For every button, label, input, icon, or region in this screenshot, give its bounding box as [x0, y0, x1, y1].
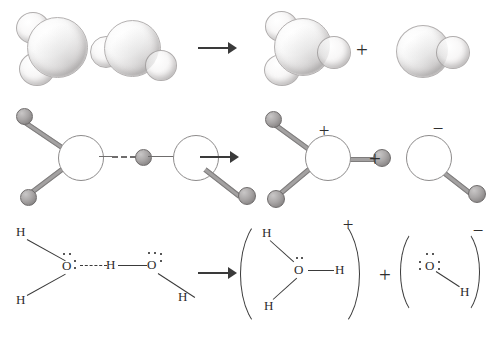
lone-pair-dot [160, 253, 162, 255]
row-space-filling: + [0, 0, 495, 112]
lone-pair-dot [63, 253, 65, 255]
lone-pair-dot [160, 260, 162, 262]
oxygen-ball [58, 135, 104, 181]
lone-pair-dot [74, 267, 76, 269]
hydrogen-label: H [16, 293, 25, 306]
oxygen-label: O [425, 259, 434, 272]
reaction-arrow [198, 267, 238, 279]
hydrogen-ball [468, 185, 486, 203]
space-filling-water-2 [90, 18, 182, 90]
hydrogen-ball [238, 187, 256, 205]
hydrogen-label: H [262, 226, 271, 239]
o-h-bond [308, 270, 334, 271]
o-h-bond [27, 239, 66, 261]
hydrogen-label: H [16, 225, 25, 238]
lewis-hydroxide: O H − [398, 213, 494, 337]
o-h-bond [203, 168, 241, 199]
hydrogen-label: H [264, 299, 273, 312]
lone-pair-dot [74, 260, 76, 262]
o-h-bond [148, 156, 175, 157]
hydrogen-sphere [145, 50, 177, 81]
plus-operator: + [375, 265, 395, 286]
row-lewis-structures: H H O H O H [0, 213, 495, 337]
hydrogen-ball [20, 189, 37, 206]
hydrogen-ball [267, 190, 285, 208]
lewis-water-2: H O H [100, 213, 210, 337]
oxygen-ball [406, 135, 452, 181]
hydrogen-bond [112, 156, 136, 158]
plus-operator: + [365, 149, 385, 170]
hydrogen-ball [265, 111, 282, 128]
plus-operator: + [352, 40, 372, 61]
ball-stick-hydronium [255, 105, 365, 215]
figure-canvas: + [0, 0, 495, 337]
hydrogen-label: H [335, 263, 344, 276]
hydrogen-label: H [460, 285, 469, 298]
row-ball-and-stick: + + − [0, 105, 495, 215]
hydroxide-charge: − [470, 221, 486, 240]
lone-pair-dot [296, 257, 298, 259]
hydrogen-sphere [317, 36, 351, 69]
oxygen-label: O [147, 258, 156, 271]
space-filling-hydroxide [396, 22, 478, 84]
hydrogen-ball [16, 108, 33, 125]
reaction-arrow [200, 151, 240, 163]
lone-pair-dot [154, 252, 156, 254]
space-filling-water-1 [14, 8, 100, 88]
o-h-bond [118, 265, 147, 266]
hydrogen-sphere [436, 36, 470, 69]
space-filling-hydronium [262, 8, 360, 90]
oxygen-sphere [27, 17, 88, 78]
lone-pair-dot [301, 257, 303, 259]
lone-pair-stub [99, 156, 113, 157]
oxygen-label: O [62, 259, 71, 272]
lone-pair-dot [148, 252, 150, 254]
hydrogen-label: H [106, 258, 115, 271]
oxygen-label: O [294, 263, 303, 276]
oxygen-ball [305, 135, 351, 181]
o-h-bond [27, 274, 66, 296]
o-h-bond [22, 120, 63, 150]
hydroxide-charge: − [430, 119, 446, 138]
hydrogen-ball [135, 149, 152, 166]
lewis-hydronium: H H O H + [242, 213, 372, 337]
lone-pair-dot [69, 253, 71, 255]
reaction-arrow [198, 42, 238, 54]
hydrogen-label: H [178, 290, 187, 303]
o-h-bond [158, 273, 195, 298]
hydronium-charge: + [316, 121, 332, 140]
o-h-bond [274, 123, 311, 152]
hydronium-charge: + [340, 215, 356, 234]
